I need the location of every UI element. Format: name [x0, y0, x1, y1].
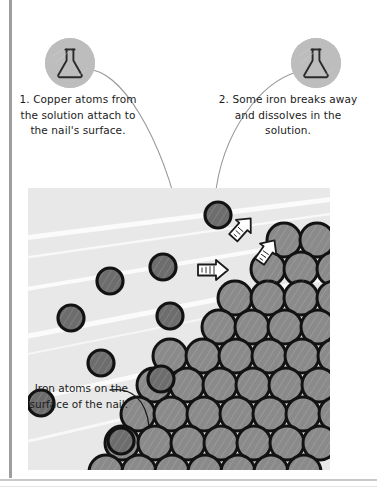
page-divider: [0, 479, 377, 481]
particle-diagram-canvas: [28, 188, 330, 470]
particle-diagram: [28, 188, 330, 470]
iron-atoms-label: Iron atoms on the surface of the nail.: [18, 381, 128, 412]
flask-badge-step1: [45, 38, 95, 88]
caption-step2: 2. Some iron breaks away and dissolves i…: [213, 92, 363, 139]
page-root: 1. Copper atoms from the solution attach…: [0, 0, 377, 491]
page-divider-secondary: [0, 486, 377, 487]
erlenmeyer-flask-icon: [45, 38, 95, 88]
erlenmeyer-flask-icon: [291, 38, 341, 88]
flask-badge-step2: [291, 38, 341, 88]
caption-step1: 1. Copper atoms from the solution attach…: [14, 92, 142, 139]
page-edge-rule: [9, 0, 12, 478]
